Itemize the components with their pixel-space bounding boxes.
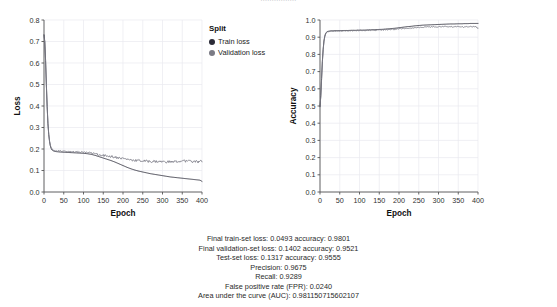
svg-text:Accuracy: Accuracy [289, 87, 298, 124]
svg-text:0.2: 0.2 [30, 145, 40, 154]
loss-legend: Split Train loss Validation loss [209, 24, 265, 59]
svg-text:0.7: 0.7 [306, 67, 316, 76]
summary-line-train: Final train-set loss: 0.0493 accuracy: 0… [0, 234, 557, 244]
summary-line-auc: Area under the curve (AUC): 0.9811507156… [0, 291, 557, 301]
legend-item-validation[interactable]: Validation loss [209, 48, 265, 58]
loss-chart: 0.00.10.20.30.40.50.60.70.80501001502002… [2, 10, 282, 232]
svg-text:0.3: 0.3 [30, 123, 40, 132]
svg-text:50: 50 [60, 196, 68, 205]
svg-text:50: 50 [336, 196, 344, 205]
svg-text:0.1: 0.1 [306, 170, 316, 179]
svg-text:0: 0 [318, 196, 322, 205]
svg-text:Loss: Loss [13, 96, 22, 116]
svg-text:150: 150 [373, 196, 385, 205]
accuracy-plot-svg: 0.00.10.20.30.40.50.60.70.80.91.00501001… [272, 10, 557, 232]
summary-line-test: Test-set loss: 0.1317 accuracy: 0.9555 [0, 253, 557, 263]
svg-text:0.9: 0.9 [306, 33, 316, 42]
svg-text:0.5: 0.5 [30, 80, 40, 89]
svg-text:400: 400 [196, 196, 208, 205]
svg-text:0.6: 0.6 [30, 59, 40, 68]
summary-line-precision: Precision: 0.9675 [0, 263, 557, 273]
svg-text:150: 150 [97, 196, 109, 205]
validation-swatch-icon [209, 50, 215, 56]
svg-text:100: 100 [78, 196, 90, 205]
svg-text:0.0: 0.0 [306, 188, 316, 197]
clipped-figure-title: ................ [0, 0, 557, 1]
svg-text:0.1: 0.1 [30, 166, 40, 175]
svg-text:350: 350 [176, 196, 188, 205]
svg-text:250: 250 [137, 196, 149, 205]
svg-text:0.6: 0.6 [306, 84, 316, 93]
train-swatch-icon [209, 39, 215, 45]
legend-label-validation: Validation loss [218, 48, 265, 58]
svg-text:200: 200 [117, 196, 129, 205]
charts-row: 0.00.10.20.30.40.50.60.70.80501001502002… [0, 10, 557, 232]
svg-text:300: 300 [433, 196, 445, 205]
summary-line-recall: Recall: 0.9289 [0, 272, 557, 282]
svg-text:0: 0 [42, 196, 46, 205]
svg-text:0.0: 0.0 [30, 188, 40, 197]
svg-text:0.8: 0.8 [306, 50, 316, 59]
svg-text:0.4: 0.4 [306, 119, 316, 128]
legend-title: Split [209, 24, 265, 34]
figure-root: ................ 0.00.10.20.30.40.50.60.… [0, 0, 557, 307]
summary-line-fpr: False positive rate (FPR): 0.0240 [0, 282, 557, 292]
svg-text:0.7: 0.7 [30, 37, 40, 46]
metrics-summary: Final train-set loss: 0.0493 accuracy: 0… [0, 234, 557, 301]
svg-text:0.5: 0.5 [306, 102, 316, 111]
svg-text:250: 250 [413, 196, 425, 205]
svg-text:200: 200 [393, 196, 405, 205]
svg-text:0.3: 0.3 [306, 136, 316, 145]
legend-item-train[interactable]: Train loss [209, 37, 265, 47]
summary-line-validation: Final validation-set loss: 0.1402 accura… [0, 244, 557, 254]
svg-text:400: 400 [472, 196, 484, 205]
svg-text:Epoch: Epoch [110, 209, 135, 218]
svg-text:0.2: 0.2 [306, 153, 316, 162]
svg-text:100: 100 [354, 196, 366, 205]
accuracy-chart: 0.00.10.20.30.40.50.60.70.80.91.00501001… [272, 10, 557, 232]
svg-text:300: 300 [157, 196, 169, 205]
svg-text:350: 350 [452, 196, 464, 205]
svg-text:1.0: 1.0 [306, 16, 316, 25]
svg-text:0.4: 0.4 [30, 102, 40, 111]
svg-text:0.8: 0.8 [30, 16, 40, 25]
svg-text:Epoch: Epoch [386, 209, 411, 218]
legend-label-train: Train loss [218, 37, 250, 47]
